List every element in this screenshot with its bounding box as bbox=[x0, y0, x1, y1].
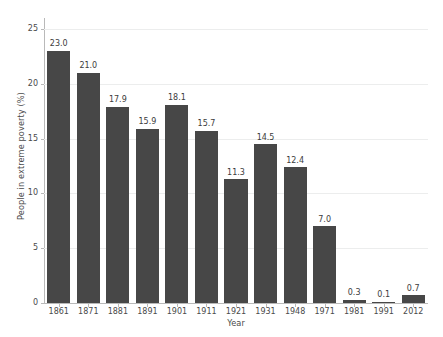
bar-value-label: 14.5 bbox=[257, 133, 275, 143]
x-axis-title: Year bbox=[44, 318, 428, 328]
y-tick-label: 20 bbox=[28, 78, 38, 90]
y-tick-mark bbox=[41, 303, 45, 304]
y-tick-label: 5 bbox=[33, 242, 38, 254]
x-tick-label-1971: 1971 bbox=[314, 306, 334, 317]
y-axis-tick-5: 5 bbox=[0, 248, 44, 249]
y-axis-title: People in extreme poverty (%) bbox=[14, 1, 28, 311]
x-tick-label-1931: 1931 bbox=[255, 306, 275, 317]
bar-1921[interactable]: 11.3 bbox=[224, 179, 247, 303]
bar-value-label: 12.4 bbox=[286, 156, 304, 166]
y-tick-mark bbox=[41, 139, 45, 140]
y-tick-mark bbox=[41, 84, 45, 85]
bar-value-label: 0.7 bbox=[407, 284, 420, 294]
bar-value-label: 11.3 bbox=[227, 168, 245, 178]
y-axis-tick-15: 15 bbox=[0, 139, 44, 140]
bar-chart-figure: People in extreme poverty (%) 23.021.017… bbox=[0, 0, 443, 337]
bar-1871[interactable]: 21.0 bbox=[77, 73, 100, 303]
x-tick-label-1981: 1981 bbox=[344, 306, 364, 317]
x-tick-label-1881: 1881 bbox=[108, 306, 128, 317]
bar-1931[interactable]: 14.5 bbox=[254, 144, 277, 303]
x-tick-label-1891: 1891 bbox=[137, 306, 157, 317]
bar-value-label: 7.0 bbox=[318, 215, 331, 225]
y-tick-label: 0 bbox=[33, 297, 38, 309]
bar-value-label: 15.9 bbox=[138, 117, 156, 127]
bar-value-label: 15.7 bbox=[198, 119, 216, 129]
y-axis-tick-25: 25 bbox=[0, 29, 44, 30]
x-tick-label-2012: 2012 bbox=[403, 306, 423, 317]
gridline-15 bbox=[44, 139, 428, 140]
x-tick-label-1991: 1991 bbox=[374, 306, 394, 317]
bar-1948[interactable]: 12.4 bbox=[284, 167, 307, 303]
bar-value-label: 0.1 bbox=[377, 290, 390, 300]
x-tick-label-1871: 1871 bbox=[78, 306, 98, 317]
bar-1891[interactable]: 15.9 bbox=[136, 129, 159, 303]
bar-1881[interactable]: 17.9 bbox=[106, 107, 129, 303]
bar-1901[interactable]: 18.1 bbox=[165, 105, 188, 303]
y-axis-tick-0: 0 bbox=[0, 303, 44, 304]
y-tick-mark bbox=[41, 29, 45, 30]
plot-area: 23.021.017.915.918.115.711.314.512.47.00… bbox=[44, 18, 428, 303]
y-tick-label: 15 bbox=[28, 133, 38, 145]
bar-value-label: 23.0 bbox=[50, 39, 68, 49]
bar-value-label: 17.9 bbox=[109, 95, 127, 105]
x-tick-label-1948: 1948 bbox=[285, 306, 305, 317]
bar-1971[interactable]: 7.0 bbox=[313, 226, 336, 303]
y-axis-tick-20: 20 bbox=[0, 84, 44, 85]
bar-2012[interactable]: 0.7 bbox=[402, 295, 425, 303]
bar-value-label: 21.0 bbox=[79, 61, 97, 71]
bar-value-label: 18.1 bbox=[168, 93, 186, 103]
gridline-25 bbox=[44, 29, 428, 30]
bar-1911[interactable]: 15.7 bbox=[195, 131, 218, 303]
x-tick-label-1921: 1921 bbox=[226, 306, 246, 317]
x-tick-label-1861: 1861 bbox=[49, 306, 69, 317]
y-tick-label: 25 bbox=[28, 23, 38, 35]
bar-value-label: 0.3 bbox=[348, 288, 361, 298]
gridline-20 bbox=[44, 84, 428, 85]
x-tick-label-1901: 1901 bbox=[167, 306, 187, 317]
y-tick-label: 10 bbox=[28, 187, 38, 199]
x-tick-label-1911: 1911 bbox=[196, 306, 216, 317]
bar-1861[interactable]: 23.0 bbox=[47, 51, 70, 303]
y-axis-tick-10: 10 bbox=[0, 193, 44, 194]
y-tick-mark bbox=[41, 248, 45, 249]
y-tick-mark bbox=[41, 193, 45, 194]
